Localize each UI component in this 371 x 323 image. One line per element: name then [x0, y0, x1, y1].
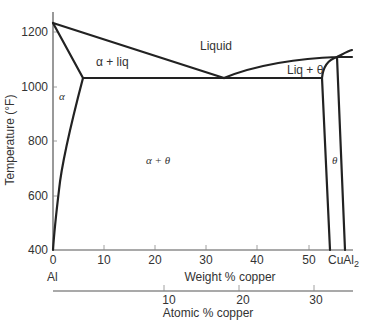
y-tick-labels: 1200 1000 800 600 400	[21, 25, 48, 257]
svg-text:50: 50	[302, 253, 316, 267]
svg-text:400: 400	[28, 243, 48, 257]
svg-text:800: 800	[28, 134, 48, 148]
region-alpha-theta: α + θ	[146, 154, 171, 166]
svg-text:20: 20	[236, 293, 250, 307]
region-liquid: Liquid	[200, 39, 232, 53]
region-liq-theta: Liq + θ	[287, 63, 324, 77]
svg-text:30: 30	[199, 253, 213, 267]
svg-text:1200: 1200	[21, 25, 48, 39]
svg-text:40: 40	[250, 253, 264, 267]
svg-text:10: 10	[97, 253, 111, 267]
solvus-alpha-line	[53, 78, 83, 250]
x-right-label-cual2: CuAl2	[328, 253, 359, 269]
y-axis-title: Temperature (°F)	[3, 95, 17, 186]
region-alpha-liq: α + liq	[96, 55, 129, 69]
phase-diagram-chart: 1200 1000 800 600 400 Temperature (°F) 0…	[0, 0, 371, 323]
svg-text:1000: 1000	[21, 80, 48, 94]
x-ticks	[104, 245, 309, 250]
x-left-label-al: Al	[47, 270, 58, 284]
svg-text:10: 10	[162, 293, 176, 307]
region-labels: Liquid α + liq α α + θ Liq + θ θ	[59, 39, 338, 166]
svg-text:30: 30	[309, 293, 323, 307]
x2-axis-title: Atomic % copper	[163, 306, 254, 320]
svg-text:600: 600	[28, 189, 48, 203]
svg-text:0: 0	[50, 253, 57, 267]
region-alpha: α	[59, 90, 65, 102]
theta-right-boundary	[337, 57, 345, 250]
x2-tick-labels: 10 20 30	[162, 293, 323, 307]
region-theta: θ	[332, 154, 338, 166]
x-tick-labels: 0 10 20 30 40 50	[50, 253, 316, 267]
svg-text:20: 20	[148, 253, 162, 267]
x-axis-title: Weight % copper	[184, 270, 275, 284]
x2-ticks	[164, 285, 314, 291]
